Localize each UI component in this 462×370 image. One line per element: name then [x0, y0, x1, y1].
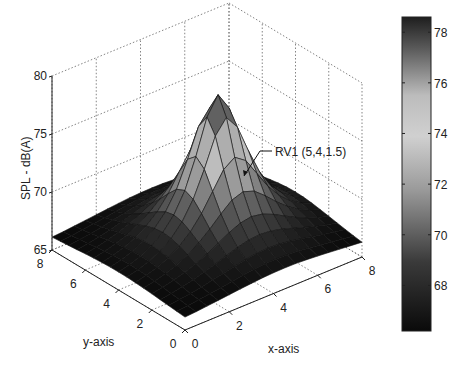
colorbar-tick-label: 72	[434, 178, 448, 192]
annotation-text: RV1 (5,4,1.5)	[275, 145, 346, 159]
y-tick-label: 2	[136, 317, 143, 331]
z-tick-label: 65	[34, 243, 48, 257]
z-tick-label: 80	[34, 69, 48, 83]
x-tick-label: 8	[369, 264, 376, 278]
x-tick-label: 4	[280, 301, 287, 315]
y-axis-label: y-axis	[83, 335, 114, 349]
surface-chart: 65707580 02468 02468 SPL - dB(A) x-axis …	[0, 0, 462, 370]
x-tick-label: 6	[324, 282, 331, 296]
colorbar-tick-label: 70	[434, 229, 448, 243]
z-tick-label: 70	[34, 185, 48, 199]
x-tick-label: 2	[236, 319, 243, 333]
x-axis-label: x-axis	[268, 342, 299, 356]
colorbar: 687072747678	[402, 17, 448, 331]
y-tick-label: 4	[103, 297, 110, 311]
y-tick-label: 0	[170, 337, 177, 351]
colorbar-tick-label: 68	[434, 279, 448, 293]
colorbar-tick-label: 74	[434, 127, 448, 141]
z-tick-label: 75	[34, 127, 48, 141]
colorbar-tick-label: 76	[434, 77, 448, 91]
y-tick-label: 6	[70, 277, 77, 291]
z-tick-labels: 65707580	[34, 69, 52, 257]
surface-mesh	[52, 95, 362, 317]
z-axis-label: SPL - dB(A)	[19, 136, 33, 200]
y-tick-label: 8	[37, 257, 44, 271]
colorbar-gradient	[402, 17, 431, 331]
colorbar-tick-label: 78	[434, 26, 448, 40]
x-tick-label: 0	[192, 337, 199, 351]
